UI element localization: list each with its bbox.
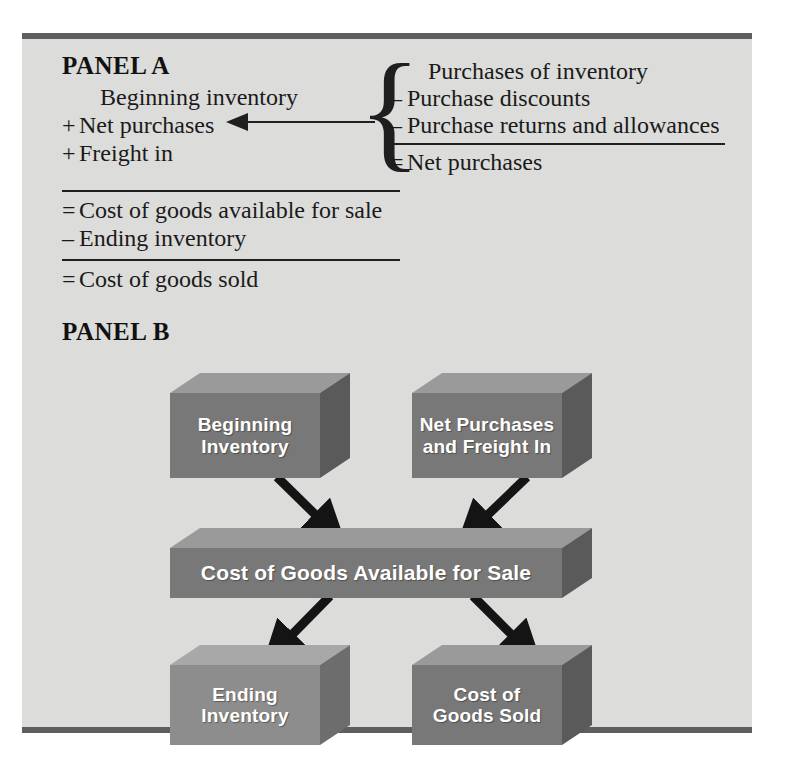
- box-label-line-2: and Freight In: [420, 436, 555, 457]
- box-front-face: Cost of Goods Sold: [412, 665, 562, 745]
- box-front-face: Cost of Goods Available for Sale: [170, 548, 562, 598]
- box-cost-of-goods-sold[interactable]: Cost of Goods Sold: [412, 645, 592, 745]
- subtotal-rule-2: [62, 259, 400, 261]
- operator-symbol: –: [390, 112, 407, 139]
- brace-arrow-head-icon: [226, 113, 248, 131]
- panel-a-title: PANEL A: [62, 52, 170, 80]
- box-label-line-2: Inventory: [198, 436, 293, 457]
- box-front-face: Beginning Inventory: [170, 393, 320, 478]
- line-text: Cost of goods available for sale: [79, 197, 382, 223]
- box-label-line-2: Goods Sold: [433, 705, 542, 726]
- box-beginning-inventory[interactable]: Beginning Inventory: [170, 373, 350, 478]
- line-text: Net purchases: [79, 112, 214, 138]
- line-text: Purchase discounts: [407, 85, 590, 111]
- panel-a-right-line-1: Purchases of inventory: [411, 58, 648, 85]
- box-front-face: Net Purchases and Freight In: [412, 393, 562, 478]
- panel-a-right-line-3: –Purchase returns and allowances: [390, 112, 720, 139]
- panel-a-left-line-2: +Net purchases: [62, 112, 214, 139]
- line-text: Ending inventory: [79, 225, 246, 251]
- box-label: Ending Inventory: [201, 684, 288, 727]
- subtotal-rule-1: [62, 190, 400, 192]
- box-label-line-1: Beginning: [198, 414, 293, 435]
- panel-a-left-line-1: Beginning inventory: [83, 84, 298, 111]
- box-net-purchases-freight-in[interactable]: Net Purchases and Freight In: [412, 373, 592, 478]
- operator-symbol: =: [62, 266, 79, 293]
- panel-a-right-result-line: =Net purchases: [390, 149, 542, 176]
- line-text: Freight in: [79, 140, 173, 166]
- line-text: Cost of goods sold: [79, 266, 258, 292]
- panel-b-title: PANEL B: [62, 318, 170, 346]
- box-label-line-1: Cost of: [433, 684, 542, 705]
- box-front-face: Ending Inventory: [170, 665, 320, 745]
- operator-symbol: =: [390, 149, 407, 176]
- operator-symbol: –: [390, 85, 407, 112]
- box-label: Cost of Goods Available for Sale: [201, 561, 531, 585]
- box-label-line-1: Net Purchases: [420, 414, 555, 435]
- figure-canvas: PANEL A Beginning inventory +Net purchas…: [0, 0, 795, 771]
- operator-symbol: +: [62, 112, 79, 139]
- box-label: Beginning Inventory: [198, 414, 293, 457]
- panel-a-summary-line-2: –Ending inventory: [62, 225, 246, 252]
- box-label: Cost of Goods Sold: [433, 684, 542, 727]
- box-label: Net Purchases and Freight In: [420, 414, 555, 457]
- net-purchases-rule: [390, 143, 725, 145]
- box-label-line-2: Inventory: [201, 705, 288, 726]
- box-label-line-1: Ending: [201, 684, 288, 705]
- operator-symbol: =: [62, 197, 79, 224]
- box-cost-of-goods-available[interactable]: Cost of Goods Available for Sale: [170, 528, 592, 598]
- line-text: Net purchases: [407, 149, 542, 175]
- operator-symbol: –: [62, 225, 79, 252]
- bottom-rule: [22, 727, 752, 733]
- line-text: Beginning inventory: [100, 84, 298, 110]
- box-ending-inventory[interactable]: Ending Inventory: [170, 645, 350, 745]
- operator-symbol: +: [62, 140, 79, 167]
- brace-arrow-shaft: [247, 121, 375, 123]
- panel-a-right-line-2: –Purchase discounts: [390, 85, 590, 112]
- box-label-line-1: Cost of Goods Available for Sale: [201, 561, 531, 585]
- line-text: Purchases of inventory: [428, 58, 648, 84]
- line-text: Purchase returns and allowances: [407, 112, 720, 138]
- panel-a-left-line-3: +Freight in: [62, 140, 173, 167]
- panel-a-summary-line-1: =Cost of goods available for sale: [62, 197, 382, 224]
- panel-a-result-line: =Cost of goods sold: [62, 266, 258, 293]
